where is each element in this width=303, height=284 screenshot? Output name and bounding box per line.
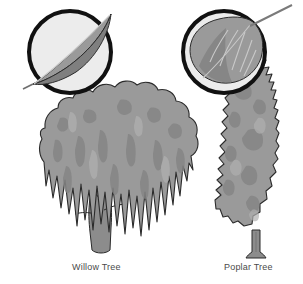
tree-comparison-figure: Willow Tree Poplar Tree — [0, 0, 303, 284]
poplar-leaf-lens — [183, 5, 292, 93]
poplar-tree-caption: Poplar Tree — [224, 262, 273, 272]
willow-tree-caption: Willow Tree — [72, 262, 121, 272]
willow-tree-graphic — [40, 81, 199, 253]
illustration-canvas — [0, 0, 303, 284]
willow-leaf-lens — [23, 11, 111, 93]
